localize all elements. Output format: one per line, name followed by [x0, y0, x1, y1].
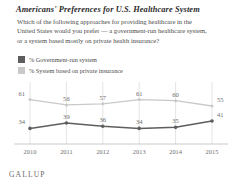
legend-item-private-insurance: % System based on private insurance	[18, 66, 123, 75]
data-point-marker	[137, 127, 141, 131]
data-point-value-label: 61	[18, 90, 25, 97]
data-point-marker	[174, 99, 177, 102]
chart-legend: % Government-run system % System based o…	[18, 55, 123, 77]
chart-subtitle: Which of the following approaches for pr…	[17, 17, 229, 45]
data-point-value-label: 56	[63, 95, 70, 102]
gridlines-group	[30, 82, 212, 144]
chart-subtitle-line: or a system based mostly on private heal…	[17, 36, 229, 45]
series-line-government-run	[30, 121, 212, 128]
series-value-labels-private-insurance: 615657616055	[18, 90, 224, 103]
data-point-marker	[101, 124, 105, 128]
data-point-value-label: 35	[172, 117, 179, 124]
x-axis-tick-labels: 201020112012201320142015	[24, 148, 219, 155]
x-axis-tick-label: 2011	[60, 148, 73, 155]
x-axis-tick-label: 2014	[169, 148, 183, 155]
data-point-marker	[28, 127, 32, 131]
x-axis-tick-label: 2010	[24, 148, 37, 155]
x-axis-tick-label: 2013	[133, 148, 146, 155]
data-point-marker	[174, 126, 178, 130]
data-point-marker	[210, 119, 214, 123]
data-point-value-label: 39	[63, 113, 70, 120]
legend-swatch-icon	[18, 56, 25, 63]
data-point-value-label: 41	[217, 111, 224, 118]
chart-subtitle-line: United States would you prefer — a gover…	[17, 26, 229, 35]
data-point-value-label: 34	[18, 118, 25, 125]
gallup-logo: GALLUP	[9, 170, 46, 179]
data-point-marker	[29, 98, 32, 101]
data-point-value-label: 34	[136, 118, 143, 125]
plot-area: 615657616055 343936343541 20102011201220…	[0, 78, 238, 160]
data-point-marker	[138, 98, 141, 101]
x-axis-tick-label: 2015	[206, 148, 219, 155]
legend-item-label: % System based on private insurance	[29, 67, 123, 74]
legend-item-government-run: % Government-run system	[18, 55, 123, 64]
legend-item-label: % Government-run system	[29, 56, 97, 63]
data-point-marker	[65, 121, 69, 125]
chart-subtitle-line: Which of the following approaches for pr…	[17, 17, 229, 26]
data-point-marker	[65, 103, 68, 106]
gallup-line-chart: Americans' Preferences for U.S. Healthca…	[0, 0, 238, 188]
chart-title: Americans' Preferences for U.S. Healthca…	[16, 5, 200, 14]
data-point-marker	[101, 102, 104, 105]
data-point-value-label: 61	[136, 90, 143, 97]
legend-swatch-icon	[18, 67, 25, 74]
data-point-marker	[211, 105, 214, 108]
data-point-value-label: 55	[217, 96, 224, 103]
data-point-value-label: 57	[100, 94, 107, 101]
x-axis-tick-label: 2012	[96, 148, 109, 155]
data-point-value-label: 60	[172, 91, 179, 98]
series-line-private-insurance	[30, 100, 212, 106]
plot-svg: 615657616055 343936343541 20102011201220…	[0, 78, 238, 160]
series-value-labels-government-run: 343936343541	[18, 111, 223, 125]
data-point-value-label: 36	[100, 116, 107, 123]
